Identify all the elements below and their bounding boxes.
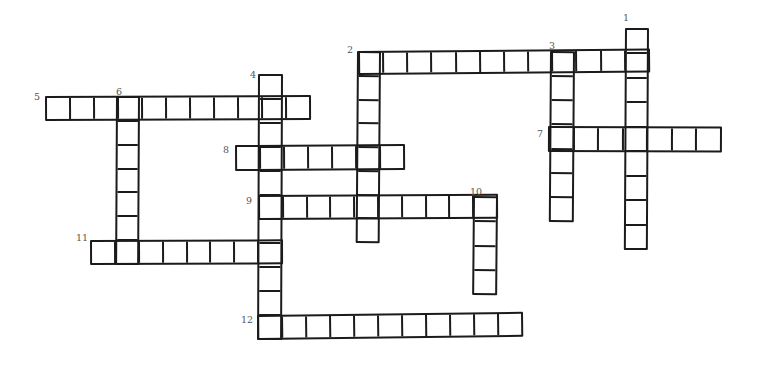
crossword-cell[interactable] — [479, 52, 503, 72]
crossword-cell[interactable] — [527, 51, 551, 71]
crossword-cell[interactable] — [329, 316, 353, 337]
crossword-cell[interactable] — [118, 120, 138, 144]
word-10-down — [472, 196, 498, 295]
crossword-cell[interactable] — [118, 168, 138, 192]
crossword-cell[interactable] — [259, 314, 280, 338]
crossword-cell[interactable] — [626, 101, 646, 126]
crossword-cell[interactable] — [260, 122, 281, 146]
crossword-cell[interactable] — [47, 98, 69, 119]
crossword-cell[interactable] — [259, 194, 280, 218]
crossword-cell[interactable] — [117, 239, 137, 263]
crossword-cell[interactable] — [358, 122, 378, 146]
crossword-cell[interactable] — [138, 242, 162, 263]
crossword-cell[interactable] — [165, 97, 189, 118]
crossword-cell[interactable] — [497, 314, 521, 335]
crossword-cell[interactable] — [455, 52, 479, 72]
crossword-cell[interactable] — [474, 269, 495, 293]
crossword-cell[interactable] — [358, 146, 378, 170]
crossword-cell[interactable] — [359, 99, 379, 123]
crossword-cell[interactable] — [671, 128, 696, 150]
crossword-cell[interactable] — [186, 242, 210, 263]
crossword-cell[interactable] — [503, 52, 527, 72]
crossword-cell[interactable] — [551, 196, 572, 220]
crossword-cell[interactable] — [401, 315, 425, 336]
crossword-cell[interactable] — [646, 128, 671, 150]
crossword-cell[interactable] — [259, 218, 280, 242]
crossword-cell[interactable] — [209, 241, 233, 262]
crossword-cell[interactable] — [358, 170, 378, 194]
crossword-cell[interactable] — [281, 316, 305, 337]
crossword-cell[interactable] — [551, 172, 572, 196]
crossword-cell[interactable] — [118, 98, 138, 120]
clue-number-2: 2 — [347, 45, 353, 55]
crossword-cell[interactable] — [259, 290, 280, 314]
crossword-cell[interactable] — [259, 242, 280, 266]
crossword-cell[interactable] — [118, 144, 138, 168]
crossword-cell[interactable] — [626, 150, 646, 175]
crossword-cell[interactable] — [551, 148, 572, 172]
crossword-cell[interactable] — [626, 199, 646, 224]
crossword-cell[interactable] — [233, 241, 257, 262]
crossword-cell[interactable] — [329, 197, 353, 218]
crossword-cell[interactable] — [162, 242, 186, 263]
crossword-cell[interactable] — [259, 266, 280, 290]
crossword-cell[interactable] — [382, 53, 406, 73]
crossword-cell[interactable] — [475, 198, 496, 220]
crossword-cell[interactable] — [260, 146, 281, 170]
crossword-cell[interactable] — [353, 316, 377, 337]
crossword-cell[interactable] — [117, 215, 137, 239]
crossword-cell[interactable] — [425, 315, 449, 336]
crossword-cell[interactable] — [572, 128, 597, 150]
crossword-cell[interactable] — [401, 196, 425, 217]
crossword-cell[interactable] — [285, 97, 309, 118]
crossword-cell[interactable] — [406, 52, 430, 72]
crossword-cell[interactable] — [359, 75, 379, 99]
crossword-cell[interactable] — [597, 128, 622, 150]
crossword-cell[interactable] — [237, 147, 259, 169]
crossword-cell[interactable] — [377, 315, 401, 336]
crossword-cell[interactable] — [626, 224, 646, 249]
crossword-cell[interactable] — [141, 98, 165, 119]
crossword-cell[interactable] — [358, 194, 378, 218]
crossword-cell[interactable] — [627, 77, 647, 102]
crossword-cell[interactable] — [575, 51, 599, 71]
crossword-cell[interactable] — [377, 196, 401, 217]
crossword-cell[interactable] — [260, 170, 281, 194]
crossword-cell[interactable] — [307, 146, 331, 168]
crossword-cell[interactable] — [283, 147, 307, 169]
crossword-cell[interactable] — [359, 53, 379, 75]
crossword-cell[interactable] — [69, 98, 93, 119]
crossword-cell[interactable] — [475, 220, 496, 244]
crossword-cell[interactable] — [306, 197, 330, 218]
crossword-cell[interactable] — [260, 76, 281, 98]
crossword-cell[interactable] — [117, 191, 137, 215]
crossword-cell[interactable] — [627, 52, 647, 77]
crossword-cell[interactable] — [473, 314, 497, 335]
crossword-cell[interactable] — [282, 197, 306, 218]
crossword-cell[interactable] — [93, 98, 117, 119]
crossword-cell[interactable] — [626, 175, 646, 200]
crossword-cell[interactable] — [305, 316, 329, 337]
crossword-cell[interactable] — [474, 245, 495, 269]
crossword-cell[interactable] — [260, 98, 281, 122]
word-3-down — [549, 51, 575, 222]
clue-number-12: 12 — [241, 315, 253, 325]
crossword-cell[interactable] — [331, 146, 355, 168]
crossword-cell[interactable] — [189, 97, 213, 118]
crossword-cell[interactable] — [425, 196, 449, 217]
crossword-cell[interactable] — [379, 146, 403, 168]
crossword-cell[interactable] — [213, 97, 237, 118]
crossword-cell[interactable] — [92, 242, 114, 263]
crossword-cell[interactable] — [358, 217, 378, 241]
crossword-cell[interactable] — [627, 30, 647, 53]
crossword-cell[interactable] — [551, 123, 572, 147]
crossword-cell[interactable] — [552, 75, 573, 99]
crossword-cell[interactable] — [430, 52, 454, 72]
crossword-cell[interactable] — [551, 99, 572, 123]
crossword-cell[interactable] — [600, 51, 624, 71]
crossword-cell[interactable] — [626, 126, 646, 151]
crossword-cell[interactable] — [695, 129, 720, 151]
crossword-cell[interactable] — [552, 53, 573, 75]
crossword-cell[interactable] — [448, 196, 472, 217]
crossword-cell[interactable] — [449, 314, 473, 335]
